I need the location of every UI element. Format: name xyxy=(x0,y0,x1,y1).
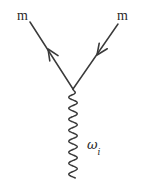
fermion-line-right xyxy=(73,24,118,89)
particle-label-right: m xyxy=(117,9,128,23)
boson-label: ωi xyxy=(87,138,101,155)
arrowhead-right xyxy=(97,43,107,55)
feynman-diagram: m m ωi xyxy=(0,0,143,184)
diagram-strokes xyxy=(30,22,118,178)
fermion-line-left xyxy=(30,22,73,89)
particle-label-left: m xyxy=(17,9,28,23)
boson-symbol: ω xyxy=(87,137,98,152)
feynman-diagram-canvas xyxy=(0,0,143,184)
boson-subscript: i xyxy=(98,147,101,157)
boson-wavy-line xyxy=(69,89,77,178)
